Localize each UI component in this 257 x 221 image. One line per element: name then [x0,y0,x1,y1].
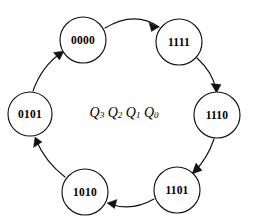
arrow-head-icon [107,200,117,209]
state-node-label: 0101 [18,108,42,120]
arrow-head-icon [54,51,65,60]
transition-0101-to-0000 [33,51,64,91]
state-node-1101[interactable]: 1101 [154,167,200,213]
center-state-variable-label: Q3 Q2 Q1 Q0 [90,105,160,121]
state-node-label: 1101 [165,184,188,196]
transition-1010-to-0101 [34,137,66,177]
state-node-label: 1010 [73,186,97,198]
transition-0000-to-1111 [105,19,159,32]
state-node-1010[interactable]: 1010 [62,169,108,215]
state-node-0101[interactable]: 0101 [8,92,52,136]
variable-q3-name: Q [90,105,100,120]
state-transition-diagram: 0000 1111 1110 1101 1010 0101 Q3 Q2 Q1 Q… [0,0,257,221]
variable-q2-name: Q [108,105,118,120]
transition-edge-path [33,53,61,91]
state-diagram-container: 0000 1111 1110 1101 1010 0101 Q3 Q2 Q1 Q… [0,0,257,221]
variable-q0-subscript: 0 [154,110,159,120]
state-node-label: 0000 [71,34,95,46]
state-node-label: 1111 [168,36,190,48]
transition-1110-to-1101 [192,139,214,174]
variable-q1-name: Q [126,105,136,120]
transition-1111-to-1110 [197,58,221,93]
transition-edge-path [36,140,65,177]
arrow-head-icon [34,137,43,148]
variable-q0-name: Q [144,105,154,120]
state-node-1111[interactable]: 1111 [156,19,202,65]
state-node-label: 1110 [206,109,229,121]
state-node-1110[interactable]: 1110 [194,92,240,138]
transition-1101-to-1010 [107,199,154,209]
state-node-0000[interactable]: 0000 [60,17,106,63]
